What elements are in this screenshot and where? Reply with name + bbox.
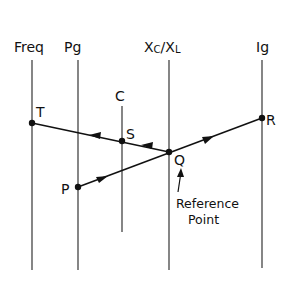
arrow-icon-p-r-1 [96,176,108,183]
arrow-icon-q-t-1 [89,132,101,139]
pg-label: Pg [64,39,81,55]
c-label: C [115,88,125,104]
freq-label: Freq [14,39,44,55]
xc-xl-label: XC/XL [144,39,181,55]
point-s [119,138,125,144]
reference-label-line2: Point [188,212,219,227]
point-s-label: S [126,126,135,142]
point-p [75,184,81,190]
reference-label-line1: Reference [176,196,239,211]
point-t-label: T [35,104,45,120]
arrow-icon-p-r-2 [202,136,214,144]
ig-label: Ig [256,39,269,55]
point-q-label: Q [174,152,185,168]
point-r-label: R [266,112,276,128]
point-r [259,115,265,121]
reference-arrow-icon [177,168,184,177]
nomogram-diagram: Freq Pg C XC/XL Ig T S Q R P Reference P… [0,0,297,300]
point-q [166,149,172,155]
point-p-label: P [61,181,69,197]
point-t [29,120,35,126]
